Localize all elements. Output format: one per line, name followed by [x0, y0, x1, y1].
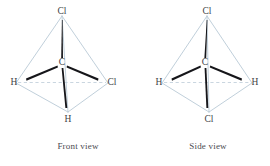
atom-label-bottom: H: [65, 115, 72, 125]
bond-c-right: [210, 66, 242, 81]
atom-label-left: H: [11, 78, 18, 88]
atom-label-center: C: [202, 58, 208, 68]
panel-side-view: Cl H H Cl C Side view: [135, 0, 270, 166]
atom-label-left: H: [156, 78, 163, 88]
bond-c-bottom: [205, 68, 209, 108]
atom-label-bottom: Cl: [204, 115, 213, 125]
atom-label-right: Cl: [107, 78, 116, 88]
caption-side-view: Side view: [189, 142, 227, 151]
front-view-tetrahedron: [0, 0, 135, 132]
panel-front-view: Cl H Cl H C Front view: [0, 0, 135, 166]
chemistry-figure: Cl H Cl H C Front view Cl H: [0, 0, 270, 166]
atom-label-right: H: [252, 78, 259, 88]
atom-label-apex: Cl: [57, 7, 66, 17]
atom-label-apex: Cl: [202, 7, 211, 17]
bond-c-right: [67, 66, 99, 81]
caption-front-view: Front view: [57, 142, 98, 151]
bond-c-apex: [204, 20, 207, 58]
bond-c-left: [26, 66, 58, 81]
bond-c-left: [172, 66, 201, 81]
atom-label-center: C: [59, 58, 65, 68]
